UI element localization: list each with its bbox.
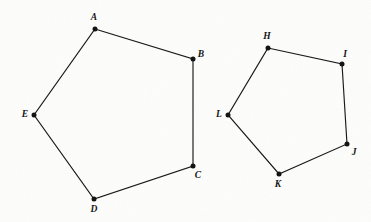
vertex-point-a (93, 27, 98, 32)
vertex-point-i (340, 62, 345, 67)
vertex-label-j: J (351, 147, 357, 157)
vertex-label-b: B (197, 49, 204, 59)
vertex-point-k (277, 172, 282, 177)
vertex-label-c: C (195, 170, 202, 180)
vertex-point-d (92, 197, 97, 202)
vertex-label-h: H (262, 31, 271, 41)
vertex-label-a: A (90, 12, 97, 22)
vertex-point-c (191, 164, 196, 169)
vertex-point-l (226, 113, 231, 118)
pentagons-diagram: ABCDEHIJKL (0, 0, 371, 222)
geometry-figure-canvas: ABCDEHIJKL (0, 0, 371, 222)
vertex-label-i: I (342, 49, 347, 59)
vertex-point-j (345, 142, 350, 147)
vertex-label-l: L (215, 109, 222, 119)
vertex-point-b (191, 57, 196, 62)
vertex-label-e: E (21, 109, 28, 119)
vertex-label-d: D (90, 204, 98, 214)
paper-texture-overlay (0, 0, 371, 222)
vertex-label-k: K (274, 179, 282, 189)
vertex-point-h (266, 46, 271, 51)
vertex-point-e (32, 113, 37, 118)
